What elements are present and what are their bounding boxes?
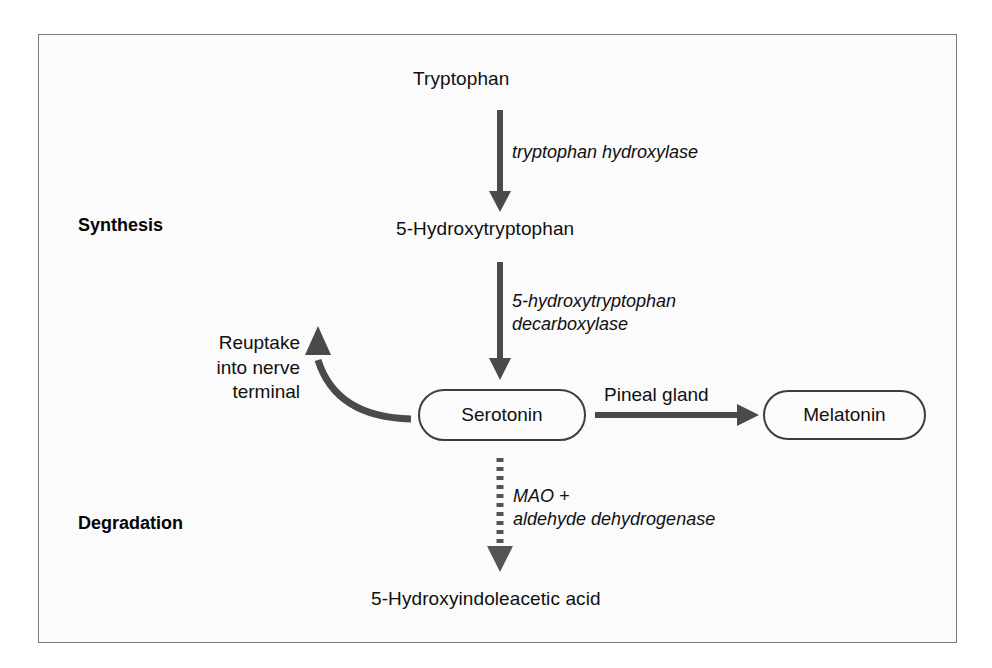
edge-label-reuptake: Reuptake into nerve terminal [180,331,300,405]
section-label-synthesis: Synthesis [78,215,163,236]
enzyme-label-tryptophan-hydroxylase: tryptophan hydroxylase [512,141,698,164]
enzyme-line: aldehyde dehydrogenase [513,508,715,531]
enzyme-line: 5-hydroxytryptophan [512,290,676,313]
enzyme-label-mao-aldehyde-dehydrogenase: MAO + aldehyde dehydrogenase [513,485,715,531]
figure-frame [38,34,957,643]
edge-label-pineal-gland: Pineal gland [604,384,709,406]
reuptake-line: Reuptake [180,331,300,356]
enzyme-line: tryptophan hydroxylase [512,141,698,164]
enzyme-line: decarboxylase [512,313,676,336]
enzyme-label-hydroxytryptophan-decarboxylase: 5-hydroxytryptophan decarboxylase [512,290,676,336]
enzyme-line: MAO + [513,485,715,508]
node-hydroxytryptophan: 5-Hydroxytryptophan [396,218,574,240]
node-melatonin-label: Melatonin [803,404,885,426]
reuptake-line: into nerve [180,356,300,381]
node-serotonin[interactable]: Serotonin [418,389,586,441]
diagram-canvas: Synthesis Degradation Tryptophan 5-Hydro… [0,0,992,668]
section-label-degradation: Degradation [78,513,183,534]
node-serotonin-label: Serotonin [461,404,542,426]
node-hydroxyindoleacetic-acid: 5-Hydroxyindoleacetic acid [371,588,601,610]
reuptake-line: terminal [180,380,300,405]
node-tryptophan: Tryptophan [413,68,509,90]
node-melatonin[interactable]: Melatonin [763,390,926,440]
